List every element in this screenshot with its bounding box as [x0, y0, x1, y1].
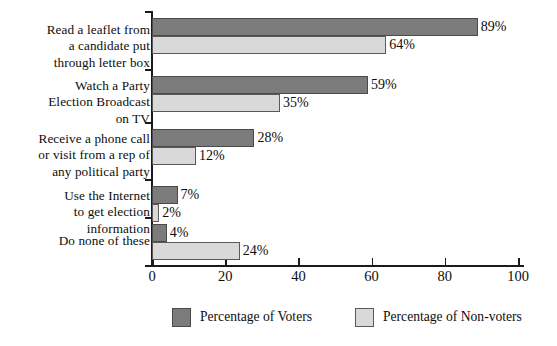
bar-value-label-voters-0: 89% [481, 18, 507, 36]
chart-legend: Percentage of Voters Percentage of Non-v… [0, 305, 557, 331]
legend-item-non-voters: Percentage of Non-voters [355, 305, 522, 329]
x-axis-tick-label: 80 [415, 268, 475, 285]
bar-value-label-nonvoters-1: 35% [283, 94, 309, 112]
x-axis-tick-label: 40 [268, 268, 328, 285]
bar-chart: Read a leaflet from a candidate put thro… [0, 0, 557, 346]
bar-voters-3 [152, 186, 178, 204]
x-axis-tick-label: 100 [488, 268, 548, 285]
bar-voters-1 [152, 76, 368, 94]
bar-nonvoters-0 [152, 36, 386, 54]
x-axis-tick-label: 0 [122, 268, 182, 285]
bar-value-label-voters-3: 7% [181, 186, 200, 204]
category-label-receive-phone-call: Receive a phone call or visit from a rep… [10, 131, 150, 180]
bar-value-label-voters-2: 28% [257, 129, 283, 147]
legend-label-voters: Percentage of Voters [200, 309, 312, 325]
y-axis-tick [145, 217, 152, 219]
y-axis-tick [145, 265, 152, 267]
x-axis-tick-label: 20 [195, 268, 255, 285]
legend-swatch-non-voters-icon [355, 308, 374, 327]
category-label-watch-party-broadcast: Watch a Party Election Broadcast on TV [10, 78, 150, 127]
y-axis-tick [145, 11, 152, 13]
bar-value-label-nonvoters-0: 64% [389, 36, 415, 54]
category-label-read-a-leaflet: Read a leaflet from a candidate put thro… [10, 22, 150, 71]
category-label-use-the-internet: Use the Internet to get election informa… [10, 188, 150, 237]
bar-voters-4 [152, 224, 167, 242]
bar-voters-2 [152, 129, 254, 147]
bar-voters-0 [152, 18, 478, 36]
bar-nonvoters-4 [152, 242, 240, 260]
x-axis-tick [445, 258, 447, 266]
x-axis-tick-label: 60 [342, 268, 402, 285]
bar-nonvoters-3 [152, 204, 159, 222]
bar-value-label-nonvoters-2: 12% [199, 147, 225, 165]
category-label-do-none-of-these: Do none of these [10, 233, 150, 249]
x-axis-tick [518, 258, 520, 266]
legend-swatch-voters-icon [172, 308, 191, 327]
bar-value-label-nonvoters-4: 24% [243, 242, 269, 260]
legend-label-non-voters: Percentage of Non-voters [383, 309, 522, 325]
bar-value-label-voters-1: 59% [371, 76, 397, 94]
y-axis-tick [145, 122, 152, 124]
bar-nonvoters-1 [152, 94, 280, 112]
x-axis-tick [298, 258, 300, 266]
y-axis-tick [145, 179, 152, 181]
bar-nonvoters-2 [152, 147, 196, 165]
bar-value-label-voters-4: 4% [170, 224, 189, 242]
bar-value-label-nonvoters-3: 2% [162, 204, 181, 222]
y-axis-tick [145, 69, 152, 71]
legend-item-voters: Percentage of Voters [172, 305, 312, 329]
x-axis-tick [372, 258, 374, 266]
x-axis-line [145, 265, 524, 267]
